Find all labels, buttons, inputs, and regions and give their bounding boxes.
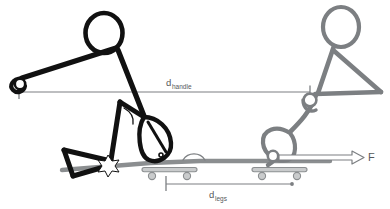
final-pose-forearm — [315, 92, 381, 94]
final-pose-handle-grip — [268, 151, 278, 161]
roller-wheel-final-right — [293, 172, 300, 179]
d-handle-label-sub: handle — [172, 83, 192, 90]
roller-wheel-initial-right — [183, 172, 190, 179]
d-handle-label-base: d — [166, 77, 171, 88]
diagram-canvas: d handle — [0, 0, 390, 209]
final-pose-seat-marker — [304, 94, 317, 107]
roller-wheel-final-left — [258, 172, 265, 179]
stick-figure-diagram: d handle — [0, 0, 390, 209]
d-legs-end-dot — [290, 182, 294, 186]
force-arrow-label: F — [368, 151, 375, 163]
roller-deck-initial — [142, 168, 197, 172]
roller-wheel-initial-left — [148, 172, 155, 179]
initial-pose-knee-dot — [159, 153, 163, 157]
d-legs-label-sub: legs — [215, 195, 228, 203]
d-legs-label-base: d — [209, 189, 214, 200]
roller-deck-final — [252, 168, 307, 172]
canvas-background — [0, 0, 390, 209]
initial-pose-handle-grip — [15, 79, 25, 89]
